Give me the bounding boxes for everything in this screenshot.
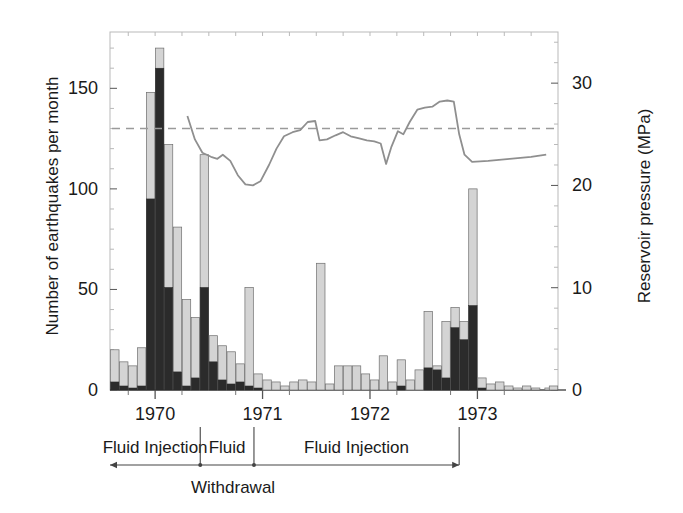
- bar-total: [308, 382, 316, 390]
- left-axis-tick-label: 0: [88, 380, 98, 400]
- bar-total: [514, 388, 522, 390]
- bar-total: [522, 386, 530, 390]
- bar-dark-segment: [182, 386, 190, 390]
- bar-dark-segment: [397, 386, 405, 390]
- bar-dark-segment: [469, 306, 477, 390]
- bar-dark-segment: [433, 370, 441, 390]
- bar-total: [182, 299, 190, 390]
- bar-dark-segment: [137, 386, 145, 390]
- bar-dark-segment: [236, 382, 244, 390]
- bar-total: [361, 374, 369, 390]
- bar-dark-segment: [478, 388, 486, 390]
- bar-dark-segment: [120, 386, 128, 390]
- annotation-arrow-left: [110, 462, 117, 468]
- bar-total: [299, 380, 307, 390]
- bar-dark-segment: [111, 382, 119, 390]
- annotation-divider-node: [198, 463, 202, 467]
- bar-total: [352, 366, 360, 390]
- bar-dark-segment: [424, 368, 432, 390]
- bar-total: [281, 386, 289, 390]
- right-axis-tick-label: 20: [572, 175, 592, 195]
- bar-total: [370, 380, 378, 390]
- bar-total: [531, 388, 539, 390]
- bar-dark-segment: [200, 287, 208, 390]
- bar-dark-segment: [155, 68, 163, 390]
- bar-total: [397, 360, 405, 390]
- x-axis-tick-label: 1970: [135, 404, 175, 424]
- bar-dark-segment: [460, 340, 468, 390]
- bar-dark-segment: [451, 328, 459, 390]
- annotation-withdrawal-label: Withdrawal: [191, 478, 275, 497]
- x-axis-tick-label: 1972: [350, 404, 390, 424]
- bar-total: [415, 370, 423, 390]
- bar-dark-segment: [227, 384, 235, 390]
- annotation-arrow-right: [452, 462, 459, 468]
- bar-dark-segment: [254, 388, 262, 390]
- earthquake-pressure-figure: Number of earthquakes per month Reservoi…: [0, 0, 683, 513]
- bar-total: [549, 386, 557, 390]
- right-axis-tick-label: 10: [572, 278, 592, 298]
- bar-total: [343, 366, 351, 390]
- bar-dark-segment: [442, 378, 450, 390]
- bar-dark-segment: [245, 386, 253, 390]
- left-axis-tick-label: 100: [68, 179, 98, 199]
- left-axis-tick-label: 50: [78, 279, 98, 299]
- bar-total: [272, 382, 280, 390]
- annotation-segment-label: Fluid: [209, 438, 246, 457]
- bar-total: [496, 382, 504, 390]
- bar-total: [129, 366, 137, 390]
- bar-dark-segment: [218, 380, 226, 390]
- plot-canvas: 05010015001020301970197119721973Fluid In…: [0, 0, 683, 513]
- left-axis-tick-label: 150: [68, 78, 98, 98]
- bar-total: [379, 356, 387, 390]
- bar-total: [263, 380, 271, 390]
- annotation-segment-label: Fluid Injection: [103, 438, 208, 457]
- bar-dark-segment: [146, 199, 154, 390]
- bar-total: [406, 380, 414, 390]
- x-axis-tick-label: 1973: [457, 404, 497, 424]
- bar-total: [173, 227, 181, 390]
- right-axis-tick-label: 0: [572, 380, 582, 400]
- bar-total: [290, 382, 298, 390]
- bar-dark-segment: [164, 287, 172, 390]
- bar-total: [325, 384, 333, 390]
- annotation-divider-node: [252, 463, 256, 467]
- bar-dark-segment: [191, 378, 199, 390]
- bar-total: [137, 348, 145, 390]
- x-axis-tick-label: 1971: [243, 404, 283, 424]
- bar-total: [254, 374, 262, 390]
- bar-dark-segment: [173, 372, 181, 390]
- bar-dark-segment: [209, 362, 217, 390]
- annotation-segment-label: Fluid Injection: [304, 438, 409, 457]
- right-axis-tick-label: 30: [572, 73, 592, 93]
- bar-total: [388, 382, 396, 390]
- bar-total: [245, 287, 253, 390]
- bar-total: [334, 366, 342, 390]
- reservoir-pressure-line: [187, 101, 546, 186]
- bar-total: [317, 263, 325, 390]
- bar-dark-segment: [129, 388, 137, 390]
- bar-total: [505, 386, 513, 390]
- bar-total: [487, 384, 495, 390]
